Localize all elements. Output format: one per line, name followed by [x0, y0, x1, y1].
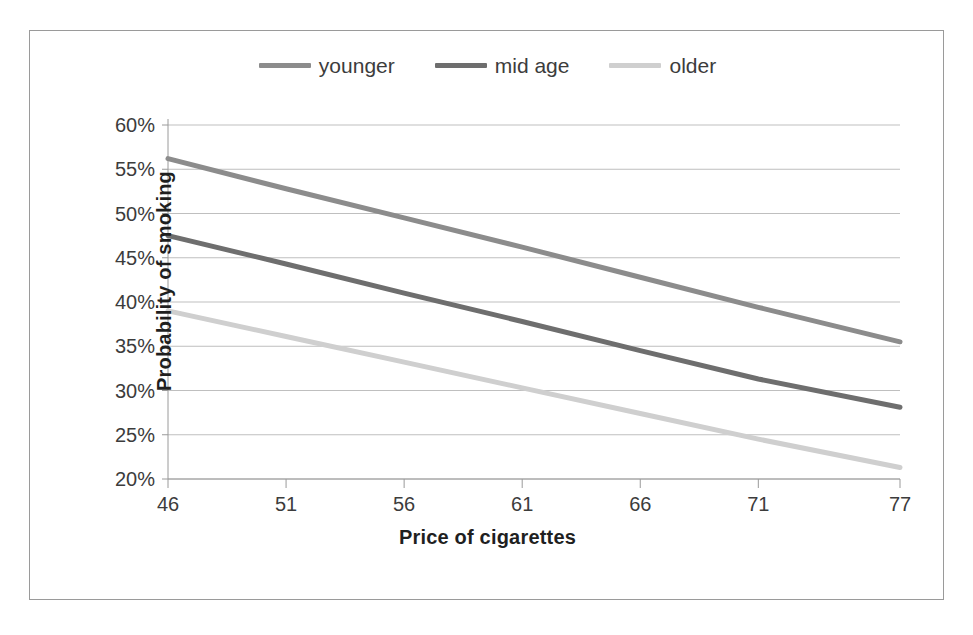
chart-frame: younger mid age older 20%25%30%35%40%45%… [29, 30, 944, 600]
y-tick-label: 55% [115, 158, 155, 180]
y-tick-label: 60% [115, 114, 155, 136]
y-tick-label: 45% [115, 247, 155, 269]
series-line-mid-age [168, 236, 900, 408]
series-line-younger [168, 159, 900, 342]
x-tick-label: 77 [889, 493, 911, 515]
y-tick-label: 30% [115, 380, 155, 402]
y-tick-label: 25% [115, 424, 155, 446]
x-tick-label: 71 [747, 493, 769, 515]
y-tick-label: 50% [115, 203, 155, 225]
x-tick-label: 66 [629, 493, 651, 515]
y-tick-label: 20% [115, 468, 155, 490]
x-tick-label: 51 [275, 493, 297, 515]
x-tick-label: 56 [393, 493, 415, 515]
y-axis-title: Probability of smoking [153, 131, 176, 431]
y-tick-label: 35% [115, 335, 155, 357]
x-tick-label: 61 [511, 493, 533, 515]
x-tick-label: 46 [157, 493, 179, 515]
series-line-older [168, 311, 900, 468]
x-axis-title: Price of cigarettes [30, 526, 945, 549]
y-tick-label: 40% [115, 291, 155, 313]
